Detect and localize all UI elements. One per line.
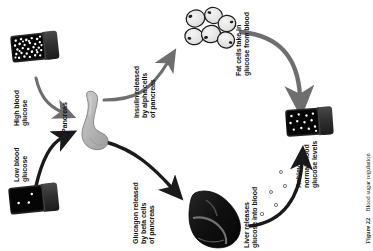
- label-insulin-released: Insulin released by alpha cells of pancr…: [134, 66, 158, 118]
- label-glucagon-released: Glucagon released by beta cells of pancr…: [133, 182, 157, 244]
- figure-caption: Figure 22Blood sugar regulation: [356, 153, 371, 247]
- figure-caption-number: Figure 22: [364, 218, 371, 244]
- normal-blood-glucose-capsule-icon: [285, 106, 334, 137]
- label-fat-cells: Fat cells take in glucose from blood: [236, 12, 252, 76]
- label-pancreas: Pancreas: [62, 102, 70, 133]
- arrow-high-to-pancreas: [36, 78, 62, 112]
- blood-sugar-regulation-diagram: [0, 0, 373, 251]
- arrow-low-to-pancreas: [36, 138, 62, 186]
- label-liver-releases: Liver releases glucose into blood: [244, 187, 260, 248]
- low-blood-glucose-capsule-icon: [8, 182, 60, 215]
- figure-caption-text: Blood sugar regulation: [364, 153, 371, 212]
- label-low-blood-glucose: Low blood glucose: [14, 147, 30, 182]
- label-high-blood-glucose: High blood glucose: [14, 90, 30, 126]
- arrow-glucagon-to-liver: [106, 142, 172, 188]
- high-blood-glucose-capsule-icon: [10, 30, 60, 63]
- label-achieve-normal-glucose: Achieve normal blood glucose levels: [296, 141, 320, 188]
- liver-organ-icon: [189, 191, 240, 248]
- fat-cells-cluster-icon: [184, 6, 237, 51]
